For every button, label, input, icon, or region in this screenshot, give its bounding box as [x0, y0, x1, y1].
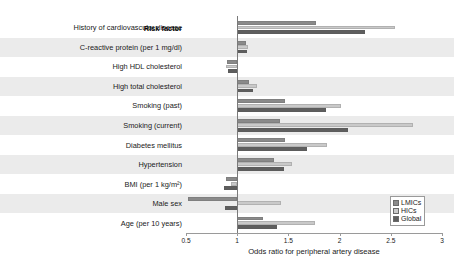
x-axis-tick-label: 3 — [440, 237, 444, 244]
x-axis-line — [186, 233, 442, 234]
legend-item: LMICs — [393, 199, 421, 207]
bar-global — [237, 147, 307, 151]
bar-global — [225, 206, 237, 210]
reference-line-at-1 — [237, 16, 238, 235]
bar-global — [224, 186, 237, 190]
bar-lmics — [237, 138, 285, 142]
legend-label: Global — [401, 215, 421, 223]
category-label: Smoking (current) — [0, 121, 182, 130]
bar-global — [237, 225, 277, 229]
bar-hics — [237, 123, 413, 127]
bar-lmics — [237, 217, 263, 221]
bar-hics — [226, 65, 237, 69]
category-label-column: Risk factor History of cardiovascular di… — [0, 18, 182, 233]
bar-hics — [237, 26, 395, 30]
bar-global — [237, 50, 247, 54]
bar-lmics — [237, 21, 316, 25]
bar-lmics — [237, 99, 285, 103]
category-label: High HDL cholesterol — [0, 62, 182, 71]
legend-label: LMICs — [401, 199, 421, 207]
category-label: BMI (per 1 kg/m²) — [0, 180, 182, 189]
bar-global — [237, 30, 365, 34]
bar-hics — [237, 104, 340, 108]
category-label: Diabetes mellitus — [0, 141, 182, 150]
x-axis-tick-label: 1.5 — [284, 237, 293, 244]
bar-lmics — [227, 60, 237, 64]
category-label: Smoking (past) — [0, 101, 182, 110]
legend-label: HICs — [401, 207, 417, 215]
bar-global — [237, 89, 252, 93]
x-axis-tick — [442, 233, 443, 236]
bar-hics — [237, 221, 315, 225]
category-label: History of cardiovascular disease — [0, 23, 182, 32]
x-axis-tick-label: 2 — [338, 237, 342, 244]
category-label: C-reactive protein (per 1 mg/dl) — [0, 43, 182, 52]
x-axis-tick — [391, 233, 392, 236]
bar-global — [228, 69, 237, 73]
x-axis-tick — [288, 233, 289, 236]
legend-swatch-lmics — [393, 200, 399, 206]
x-axis-title: Odds ratio for peripheral artery disease — [186, 247, 442, 256]
bar-hics — [237, 162, 292, 166]
legend-item: HICs — [393, 207, 421, 215]
bar-global — [237, 108, 326, 112]
bar-global — [237, 128, 348, 132]
x-axis-tick-label: 0.5 — [181, 237, 190, 244]
bar-lmics — [226, 177, 237, 181]
bar-lmics — [188, 197, 237, 201]
bar-hics — [237, 84, 256, 88]
bar-lmics — [237, 119, 280, 123]
category-label: Male sex — [0, 199, 182, 208]
category-label: Age (per 10 years) — [0, 219, 182, 228]
x-axis-tick — [237, 233, 238, 236]
category-label: Hypertension — [0, 160, 182, 169]
legend-swatch-global — [393, 216, 399, 222]
legend: LMICsHICsGlobal — [390, 196, 425, 226]
bar-hics — [237, 201, 281, 205]
x-axis-tick — [186, 233, 187, 236]
odds-ratio-bar-chart: Risk factor History of cardiovascular di… — [0, 0, 454, 277]
bar-lmics — [237, 41, 246, 45]
x-axis-tick — [340, 233, 341, 236]
bar-lmics — [237, 80, 249, 84]
x-axis-tick-label: 1 — [235, 237, 239, 244]
category-label: High total cholesterol — [0, 82, 182, 91]
bar-hics — [237, 143, 327, 147]
bar-hics — [237, 45, 248, 49]
legend-item: Global — [393, 215, 421, 223]
bar-lmics — [237, 158, 274, 162]
x-axis-tick-label: 2.5 — [386, 237, 395, 244]
bar-global — [237, 167, 284, 171]
legend-swatch-hics — [393, 208, 399, 214]
